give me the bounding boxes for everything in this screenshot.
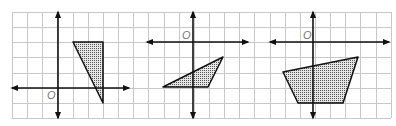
origin-label: O [47, 89, 56, 101]
origin-label: O [303, 29, 312, 41]
origin-label: O [182, 29, 191, 41]
coordinate-figure: OOO [0, 0, 396, 126]
quadrilateral-shape [283, 57, 358, 103]
